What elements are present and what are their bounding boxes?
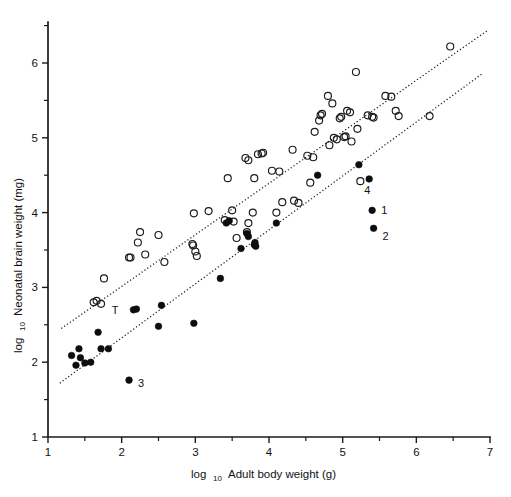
data-point-open bbox=[100, 275, 107, 282]
data-point-filled bbox=[95, 329, 102, 336]
y-axis-title-log: log bbox=[12, 338, 24, 353]
data-point-open bbox=[273, 209, 280, 216]
x-axis-title-sub: 10 bbox=[213, 474, 222, 483]
data-point-open bbox=[268, 167, 275, 174]
data-point-filled bbox=[273, 220, 280, 227]
data-point-open bbox=[338, 113, 345, 120]
x-axis-title-rest: Adult body weight (g) bbox=[228, 468, 336, 480]
data-point-filled bbox=[366, 176, 373, 183]
data-point-filled bbox=[77, 354, 84, 361]
data-point-filled bbox=[133, 306, 140, 313]
data-point-open bbox=[307, 179, 314, 186]
y-tick-label: 6 bbox=[32, 57, 38, 69]
data-point-open bbox=[193, 252, 200, 259]
axes-group: 1234561234567 bbox=[32, 22, 494, 458]
x-tick-label: 4 bbox=[266, 446, 273, 458]
data-point-open bbox=[137, 229, 144, 236]
data-point-filled bbox=[126, 377, 133, 384]
data-point-open bbox=[155, 232, 162, 239]
data-point-filled bbox=[98, 345, 105, 352]
data-point-open bbox=[348, 138, 355, 145]
data-point-open bbox=[426, 113, 433, 120]
data-point-filled bbox=[252, 243, 259, 250]
point-label-3: 3 bbox=[138, 377, 144, 389]
data-point-filled bbox=[356, 161, 363, 168]
data-point-filled bbox=[369, 207, 376, 214]
x-tick-label: 2 bbox=[118, 446, 124, 458]
data-point-open bbox=[324, 92, 331, 99]
data-point-open bbox=[249, 209, 256, 216]
data-point-open bbox=[352, 68, 359, 75]
data-point-filled bbox=[314, 172, 321, 179]
y-tick-label: 3 bbox=[32, 281, 38, 293]
x-tick-label: 5 bbox=[339, 446, 345, 458]
data-point-open bbox=[357, 178, 364, 185]
data-point-open bbox=[233, 235, 240, 242]
data-point-filled bbox=[370, 225, 377, 232]
data-point-open bbox=[279, 199, 286, 206]
filled-circle-series bbox=[68, 161, 377, 383]
data-point-filled bbox=[238, 245, 245, 252]
data-point-open bbox=[326, 142, 333, 149]
data-point-open bbox=[354, 125, 361, 132]
data-point-open bbox=[447, 43, 454, 50]
x-tick-label: 7 bbox=[487, 446, 493, 458]
point-label-T: T bbox=[112, 304, 119, 316]
x-tick-label: 3 bbox=[192, 446, 198, 458]
point-label-4: 4 bbox=[364, 184, 370, 196]
y-tick-label: 4 bbox=[32, 207, 39, 219]
x-tick-label: 6 bbox=[413, 446, 419, 458]
data-point-filled bbox=[73, 362, 80, 369]
data-point-filled bbox=[68, 352, 75, 359]
data-point-open bbox=[245, 220, 252, 227]
data-point-open bbox=[229, 207, 236, 214]
data-point-filled bbox=[76, 345, 83, 352]
x-axis-title-log: log bbox=[191, 468, 206, 480]
y-tick-label: 5 bbox=[32, 132, 38, 144]
data-point-open bbox=[134, 239, 141, 246]
y-axis-title: log10Neonatal brain weight (mg) bbox=[12, 178, 27, 353]
data-point-open bbox=[190, 210, 197, 217]
data-point-filled bbox=[82, 360, 89, 367]
upper-regression-line bbox=[61, 31, 487, 329]
data-point-open bbox=[205, 208, 212, 215]
data-point-filled bbox=[217, 275, 224, 282]
plot-canvas: 1234561234567 1234T log10Adult body weig… bbox=[0, 0, 511, 497]
point-label-2: 2 bbox=[383, 230, 389, 242]
data-point-open bbox=[319, 110, 326, 117]
data-point-open bbox=[289, 146, 296, 153]
scatter-plot-figure: 1234561234567 1234T log10Adult body weig… bbox=[0, 0, 511, 497]
y-tick-label: 1 bbox=[32, 431, 38, 443]
data-point-open bbox=[224, 175, 231, 182]
lower-regression-line bbox=[60, 73, 483, 383]
y-tick-label: 2 bbox=[32, 356, 38, 368]
x-tick-label: 1 bbox=[45, 446, 51, 458]
y-axis-title-rest: Neonatal brain weight (mg) bbox=[12, 178, 24, 316]
data-point-filled bbox=[87, 359, 94, 366]
regression-lines-group bbox=[60, 31, 487, 383]
x-axis-title: log10Adult body weight (g) bbox=[191, 468, 336, 483]
data-point-filled bbox=[155, 323, 162, 330]
y-axis-title-sub: 10 bbox=[18, 322, 27, 331]
data-point-open bbox=[251, 175, 258, 182]
data-point-filled bbox=[158, 302, 165, 309]
data-point-filled bbox=[226, 218, 233, 225]
data-point-open bbox=[329, 100, 336, 107]
data-point-open bbox=[142, 251, 149, 258]
open-circle-series bbox=[90, 43, 454, 307]
data-point-open bbox=[311, 128, 318, 135]
data-point-filled bbox=[105, 345, 112, 352]
point-label-1: 1 bbox=[381, 204, 387, 216]
data-point-open bbox=[192, 248, 199, 255]
data-point-filled bbox=[191, 320, 198, 327]
data-point-filled bbox=[245, 233, 252, 240]
data-point-open bbox=[161, 258, 168, 265]
data-point-open bbox=[276, 168, 283, 175]
